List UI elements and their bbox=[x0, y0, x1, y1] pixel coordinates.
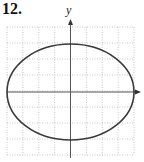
y-axis-label: y bbox=[65, 3, 72, 17]
y-axis-arrow-icon bbox=[68, 19, 73, 25]
y-axis bbox=[68, 19, 73, 158]
x-axis bbox=[7, 90, 141, 95]
ellipse-graph: y bbox=[0, 0, 144, 162]
x-axis-arrow-icon bbox=[135, 90, 141, 95]
